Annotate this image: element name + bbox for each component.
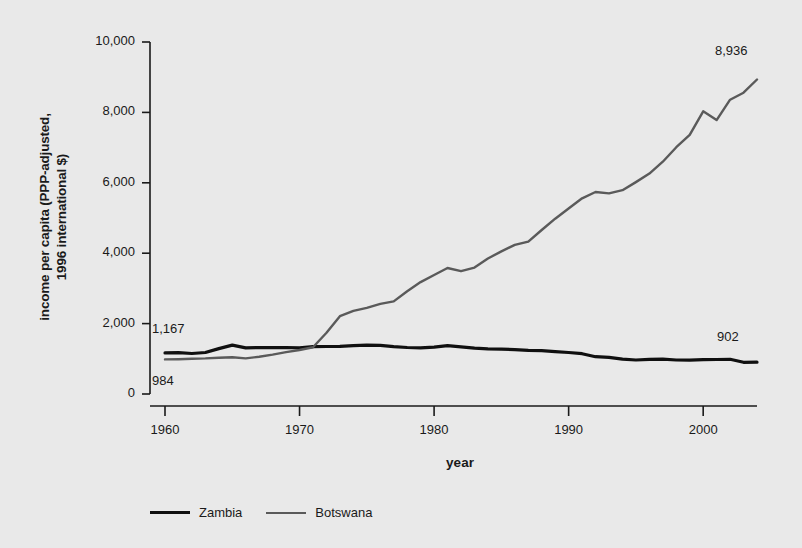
x-tick-label-1960: 1960 xyxy=(135,422,195,437)
legend-swatch-zambia xyxy=(150,511,190,514)
series-line-botswana xyxy=(165,80,757,360)
x-tick-label-1990: 1990 xyxy=(539,422,599,437)
y-tick-label-2000: 2,000 xyxy=(55,315,135,330)
y-tick-label-6000: 6,000 xyxy=(55,174,135,189)
legend-label-botswana: Botswana xyxy=(315,505,386,520)
x-axis-title: year xyxy=(400,455,520,470)
series-line-zambia xyxy=(165,345,757,362)
x-tick-label-1980: 1980 xyxy=(404,422,464,437)
legend-item-botswana[interactable]: Botswana xyxy=(266,505,386,520)
legend-item-zambia[interactable]: Zambia xyxy=(150,505,256,520)
y-tick-label-8000: 8,000 xyxy=(55,103,135,118)
label-zambia-start: 1,167 xyxy=(152,321,185,336)
y-tick-label-10000: 10,000 xyxy=(55,33,135,48)
x-tick-label-2000: 2000 xyxy=(673,422,733,437)
legend-label-zambia: Zambia xyxy=(199,505,256,520)
y-tick-label-4000: 4,000 xyxy=(55,244,135,259)
label-botswana-end: 8,936 xyxy=(715,43,748,58)
legend-swatch-botswana xyxy=(266,512,306,514)
label-botswana-start: 984 xyxy=(152,373,174,388)
x-tick-label-1970: 1970 xyxy=(270,422,330,437)
legend: Zambia Botswana xyxy=(150,505,386,520)
y-tick-label-0: 0 xyxy=(55,385,135,400)
label-zambia-end: 902 xyxy=(717,329,739,344)
chart-figure: income per capita (PPP-adjusted, 1996 in… xyxy=(0,0,802,548)
